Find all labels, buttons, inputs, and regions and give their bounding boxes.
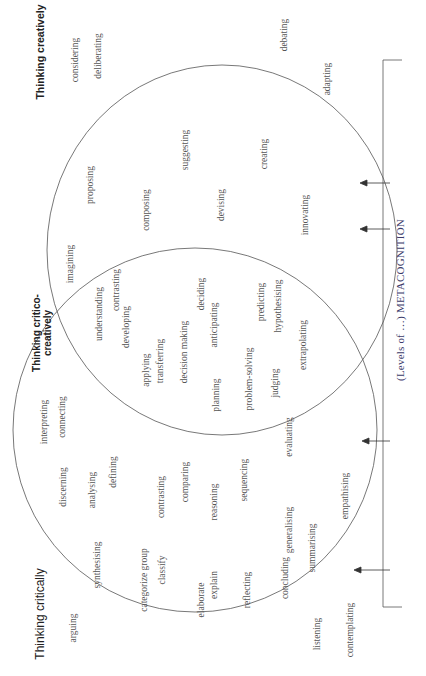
word: interpreting: [40, 400, 50, 444]
word: discerning: [59, 467, 69, 507]
word: understanding: [95, 287, 105, 341]
venn-diagram: Thinking creatively Thinking critically …: [0, 0, 426, 676]
word: summarising: [308, 523, 318, 572]
word: devising: [217, 189, 227, 221]
word: contrasting: [157, 476, 167, 518]
word: evaluating: [285, 417, 295, 457]
word: proposing: [86, 166, 96, 204]
word: adapting: [323, 63, 333, 96]
word: innovating: [301, 195, 311, 236]
word: developing: [122, 306, 132, 348]
word: judging: [271, 368, 281, 397]
word: extrapolating: [299, 320, 309, 370]
word: deliberating: [94, 33, 104, 78]
word: generalising: [285, 507, 295, 553]
word: connecting: [58, 396, 68, 438]
word: problem-solving: [245, 348, 255, 411]
arrow-icon: [360, 226, 390, 232]
word: listening: [313, 618, 323, 651]
word: composing: [142, 189, 152, 231]
critical-title: Thinking critically: [34, 568, 46, 659]
word: sequencing: [240, 459, 250, 502]
overlap-title: Thinking critico-creatively: [32, 293, 53, 373]
word: planning: [212, 378, 222, 411]
word: synthesising: [93, 542, 103, 589]
word: concluding: [281, 557, 291, 599]
word: creating: [260, 139, 270, 170]
word: predicting: [257, 283, 267, 322]
word: elaborate: [197, 583, 207, 618]
word: applying: [142, 353, 152, 386]
word: transferring: [156, 339, 166, 383]
word: explain: [210, 571, 220, 599]
arrow-icon: [354, 567, 390, 573]
word: anticipating: [210, 303, 220, 348]
word: debating: [280, 19, 290, 52]
word: classify: [158, 555, 168, 584]
word: reflecting: [243, 572, 253, 608]
creative-title: Thinking creatively: [35, 4, 46, 99]
metacognition-label: (Levels of …) METACOGNITION: [395, 219, 406, 381]
word: considering: [71, 38, 81, 82]
word: hypothesising: [274, 280, 284, 333]
word: reasoning: [210, 484, 220, 521]
word: arguing: [69, 614, 79, 643]
word: categorize group: [140, 548, 150, 612]
word: analysing: [88, 472, 98, 508]
arrow-icon: [362, 438, 390, 444]
word: contemplating: [346, 603, 356, 657]
word: defining: [109, 456, 119, 488]
word: contrasting: [112, 269, 122, 311]
word: suggesting: [181, 130, 191, 171]
word: comparing: [181, 462, 191, 503]
word: imagining: [66, 245, 76, 284]
word: decision making: [180, 321, 190, 384]
word: deciding: [197, 278, 207, 311]
word: empathising: [341, 473, 351, 519]
